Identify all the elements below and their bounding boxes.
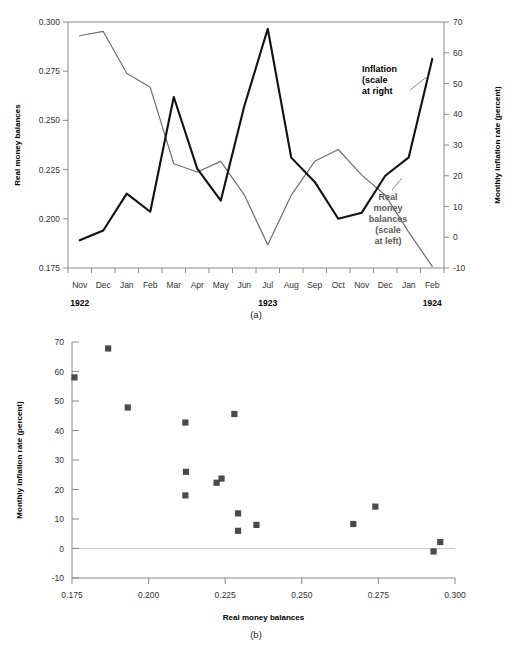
scatter-point — [430, 548, 436, 554]
y-axis-ticklabel: 30 — [55, 455, 65, 465]
x-axis-month-label: Jul — [262, 280, 273, 290]
x-axis-month-label: Dec — [378, 280, 394, 290]
left-axis-ticklabel: 0.250 — [39, 115, 61, 125]
annotation-real-money-line: at left) — [375, 236, 402, 246]
y-axis-ticklabel: 50 — [55, 396, 65, 406]
scatter-point — [235, 510, 241, 516]
left-axis-ticklabel: 0.275 — [39, 66, 61, 76]
x-axis-month-label: Feb — [425, 280, 440, 290]
annotation-inflation-line: at right — [362, 86, 393, 96]
right-axis-ticklabel: 20 — [453, 171, 463, 181]
x-axis-ticklabel: 0.200 — [138, 590, 160, 600]
scatter-point — [125, 404, 131, 410]
annotation-inflation-line: Inflation — [362, 64, 397, 74]
scatter-point — [105, 345, 111, 351]
scatter-point — [182, 492, 188, 498]
annotation-real-money-line: money — [373, 203, 402, 213]
x-axis-year-label: 1922 — [70, 298, 89, 308]
scatter-point — [182, 419, 188, 425]
x-axis-month-label: Apr — [191, 280, 204, 290]
annotation-real-money-line: Real — [378, 192, 397, 202]
y-axis-title: Monthly inflation rate (percent) — [15, 401, 24, 519]
x-axis-month-label: Aug — [284, 280, 299, 290]
line-chart-svg: 0.1750.2000.2250.2500.2750.300-100102030… — [0, 0, 512, 330]
x-axis-ticklabel: 0.300 — [444, 590, 466, 600]
right-axis-ticklabel: 30 — [453, 140, 463, 150]
x-axis-month-label: Jun — [237, 280, 251, 290]
right-axis-ticklabel: 70 — [453, 17, 463, 27]
y-axis-ticklabel: -10 — [52, 573, 65, 583]
x-axis-ticklabel: 0.225 — [215, 590, 237, 600]
x-axis-title: Real money balances — [223, 613, 305, 622]
x-axis-month-label: Jan — [402, 280, 416, 290]
y-axis-ticklabel: 40 — [55, 426, 65, 436]
panel-b-scatter-chart: -100102030405060700.1750.2000.2250.2500.… — [0, 330, 512, 657]
scatter-point — [372, 504, 378, 510]
x-axis-month-label: Feb — [143, 280, 158, 290]
right-axis-title: Monthly inflation rate (percent) — [493, 86, 502, 204]
annotation-inflation-line: (scale — [362, 75, 388, 85]
scatter-point — [71, 374, 77, 380]
x-axis-ticklabel: 0.275 — [368, 590, 390, 600]
x-axis-year-label: 1923 — [258, 298, 277, 308]
scatter-point — [183, 469, 189, 475]
right-axis-ticklabel: 40 — [453, 109, 463, 119]
scatter-point — [218, 475, 224, 481]
left-axis-ticklabel: 0.225 — [39, 165, 61, 175]
scatter-chart-svg: -100102030405060700.1750.2000.2250.2500.… — [0, 330, 512, 657]
right-axis-ticklabel: 0 — [453, 232, 458, 242]
x-axis-month-label: Nov — [354, 280, 370, 290]
annotation-real-money-line: (scale — [375, 225, 401, 235]
x-axis-month-label: May — [213, 280, 230, 290]
x-axis-month-label: Sep — [307, 280, 322, 290]
right-axis-ticklabel: 50 — [453, 79, 463, 89]
right-axis-ticklabel: -10 — [453, 263, 466, 273]
annotation-real-money-line: balances — [369, 214, 408, 224]
x-axis-month-label: Jan — [120, 280, 134, 290]
right-axis-ticklabel: 60 — [453, 48, 463, 58]
figure-root: 0.1750.2000.2250.2500.2750.300-100102030… — [0, 0, 512, 657]
scatter-point — [437, 539, 443, 545]
y-axis-ticklabel: 20 — [55, 485, 65, 495]
x-axis-month-label: Oct — [332, 280, 346, 290]
left-axis-ticklabel: 0.200 — [39, 214, 61, 224]
x-axis-ticklabel: 0.175 — [61, 590, 83, 600]
y-axis-ticklabel: 60 — [55, 367, 65, 377]
scatter-point — [231, 411, 237, 417]
x-axis-month-label: Dec — [96, 280, 112, 290]
x-axis-month-label: Mar — [166, 280, 181, 290]
y-axis-ticklabel: 0 — [59, 544, 64, 554]
x-axis-ticklabel: 0.250 — [291, 590, 313, 600]
annotation-real-money-leader — [392, 178, 402, 190]
scatter-point — [235, 528, 241, 534]
right-axis-ticklabel: 10 — [453, 202, 463, 212]
left-axis-ticklabel: 0.300 — [39, 17, 61, 27]
y-axis-ticklabel: 10 — [55, 514, 65, 524]
x-axis-year-label: 1924 — [423, 298, 442, 308]
scatter-point — [350, 521, 356, 527]
left-axis-ticklabel: 0.175 — [39, 263, 61, 273]
x-axis-month-label: Nov — [72, 280, 88, 290]
left-axis-title: Real money balances — [13, 104, 22, 186]
panel-a-caption: (a) — [250, 309, 262, 320]
y-axis-ticklabel: 70 — [55, 337, 65, 347]
panel-a-line-chart: 0.1750.2000.2250.2500.2750.300-100102030… — [0, 0, 512, 330]
panel-b-caption: (b) — [250, 629, 262, 640]
scatter-point — [253, 522, 259, 528]
